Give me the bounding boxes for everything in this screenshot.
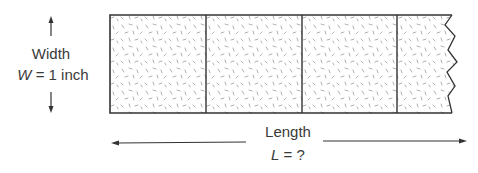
length-arrow-right-icon: [323, 139, 467, 144]
strip-diagram: [0, 0, 478, 173]
length-title: Length: [255, 123, 321, 140]
length-value: = ?: [279, 146, 304, 163]
width-symbol: W: [17, 66, 31, 83]
strip-fill: [110, 15, 457, 113]
width-value: = 1 inch: [32, 66, 89, 83]
width-arrow-down-icon: [49, 92, 54, 113]
length-arrow-left-icon: [111, 141, 246, 146]
width-title: Width: [20, 45, 82, 62]
length-equation: L = ?: [255, 146, 321, 163]
width-arrow-up-icon: [49, 16, 54, 36]
width-equation: W = 1 inch: [13, 66, 93, 83]
